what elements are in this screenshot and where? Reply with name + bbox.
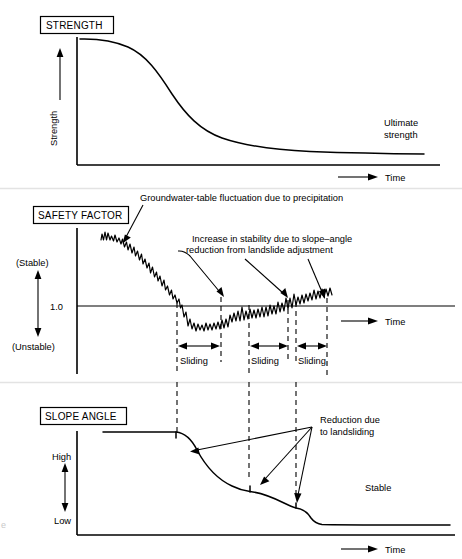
landslide-evolution-figure: STRENGTH Strength Ultimate strength Time… <box>0 0 462 559</box>
unstable-label: (Unstable) <box>12 342 55 352</box>
slope-angle-x-axis-label: Time <box>385 545 405 555</box>
strength-x-axis-label: Time <box>385 173 405 183</box>
increase-stability-line1: Increase in stability due to slope–angle <box>192 234 352 244</box>
strength-title-box: STRENGTH <box>41 17 114 34</box>
panel-slope-angle: SLOPE ANGLE High Low Reduction due to la… <box>41 382 456 555</box>
slope-angle-box-label: SLOPE ANGLE <box>45 411 117 422</box>
panel-strength: STRENGTH Strength Ultimate strength Time <box>41 17 441 183</box>
strength-x-arrow <box>338 173 378 180</box>
sliding-label-2: Sliding <box>251 356 279 366</box>
stability-leader-arrow-1 <box>178 251 224 297</box>
strength-y-arrow <box>57 48 64 100</box>
sliding-label-3: Sliding <box>298 356 326 366</box>
slope-direction-arrow <box>62 463 69 512</box>
stable-label: (Stable) <box>16 258 49 268</box>
threshold-value-label: 1.0 <box>50 302 63 312</box>
sliding-measure-3 <box>297 343 327 350</box>
ultimate-strength-label-line1: Ultimate <box>384 118 418 128</box>
increase-stability-line2: reduction from landslide adjustment <box>186 245 333 255</box>
low-label: Low <box>54 516 71 526</box>
high-label: High <box>52 452 71 462</box>
strength-box-label: STRENGTH <box>46 20 103 31</box>
safety-factor-box-label: SAFETY FACTOR <box>38 210 122 221</box>
reduction-label-line2: to landsliding <box>320 427 374 437</box>
sliding-measure-1 <box>178 343 220 350</box>
safety-factor-x-axis-label: Time <box>385 317 405 327</box>
stability-leader-arrow-2 <box>245 259 288 298</box>
safety-factor-x-arrow <box>341 317 378 324</box>
safety-factor-title-box: SAFETY FACTOR <box>34 207 129 224</box>
reduction-arrow-1 <box>190 427 312 455</box>
ultimate-strength-label-line2: strength <box>384 130 418 140</box>
stable-region-label: Stable <box>365 483 391 493</box>
reduction-label-line1: Reduction due <box>320 415 380 425</box>
slope-angle-curve <box>103 432 450 525</box>
groundwater-annotation: Groundwater-table fluctuation due to pre… <box>140 193 343 203</box>
strength-curve <box>80 39 424 154</box>
strength-y-axis-label: Strength <box>49 111 59 146</box>
slope-angle-x-arrow <box>341 545 378 552</box>
slope-angle-title-box: SLOPE ANGLE <box>41 408 127 425</box>
reduction-arrow-3 <box>294 427 312 503</box>
panel-safety-factor: Groundwater-table fluctuation due to pre… <box>12 193 455 375</box>
sliding-measure-2 <box>250 343 288 350</box>
edge-artifact: e <box>1 520 6 530</box>
stability-direction-arrow <box>35 270 42 337</box>
sliding-label-1: Sliding <box>180 356 208 366</box>
